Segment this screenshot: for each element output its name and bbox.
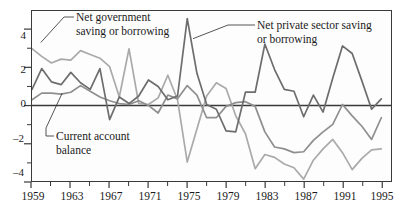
x-axis-ticks	[31, 182, 382, 188]
sectoral-balances-chart: 4 2 0 –2 –4 1959 1963 1967 1971 1975 197…	[0, 0, 405, 211]
x-tick-label-1983: 1983	[246, 190, 288, 202]
y-tick-label-2: 2	[2, 64, 26, 75]
x-tick-label-1967: 1967	[90, 190, 132, 202]
series-line	[32, 49, 381, 179]
y-tick-label-4: 4	[2, 30, 26, 41]
x-tick-label-1979: 1979	[207, 190, 249, 202]
annotation-net-private: Net private sector saving or borrowing	[257, 19, 372, 46]
annotation-net-government: Net government saving or borrowing	[76, 11, 169, 38]
x-tick-label-1971: 1971	[129, 190, 171, 202]
x-tick-label-1987: 1987	[285, 190, 327, 202]
annotation-current-account: Current account balance	[56, 130, 130, 157]
y-tick-label-0: 0	[2, 98, 26, 109]
x-tick-label-1991: 1991	[324, 190, 366, 202]
y-tick-label-neg2: –2	[0, 133, 24, 144]
x-tick-label-1959: 1959	[12, 190, 54, 202]
x-tick-label-1995: 1995	[361, 190, 403, 202]
x-tick-label-1975: 1975	[168, 190, 210, 202]
x-tick-label-1963: 1963	[51, 190, 93, 202]
y-tick-label-neg4: –4	[0, 167, 24, 178]
